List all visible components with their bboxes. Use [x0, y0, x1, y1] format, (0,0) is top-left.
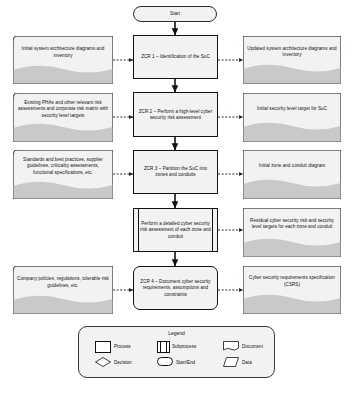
process-zcr4[interactable]: ZCR 4 – Document cyber security requirem… [133, 266, 218, 310]
process-zcr1[interactable]: ZCR 1 – Identification of the SuC [133, 35, 218, 79]
legend-item-process: Process [95, 341, 131, 351]
output-initial-sl-target-label: Initial security level target for SuC [243, 106, 341, 112]
output-initial-zone-conduit-diagram: Initial zone and conduit diagram [243, 150, 341, 199]
start-label: Start [134, 11, 216, 17]
document-icon [223, 341, 239, 351]
input-existing-phas-label: Existing PHAs and other relevant risk as… [13, 100, 113, 119]
output-residual-risk: Residual cyber security risk and securit… [243, 208, 341, 257]
input-initial-architecture: Initial system architecture diagrams and… [13, 36, 113, 84]
input-company-policies: Company policies, regulations, tolerable… [13, 266, 113, 314]
legend-item-subprocess: Subprocess [157, 341, 196, 351]
legend-item-startend-label: Start/End [176, 360, 195, 365]
output-residual-risk-label: Residual cyber security risk and securit… [243, 217, 341, 230]
process-zcr2-label: ZCR 2 – Perform a high-level cyber secur… [134, 108, 217, 121]
input-existing-phas: Existing PHAs and other relevant risk as… [13, 93, 113, 142]
data-icon [223, 357, 239, 367]
output-initial-zone-conduit-diagram-label: Initial zone and conduit diagram [243, 163, 341, 169]
subprocess-detailed-risk-assessment[interactable]: Perform a detailed cyber security risk a… [133, 208, 218, 252]
legend-item-document: Document [223, 341, 263, 351]
legend-item-data: Data [223, 357, 252, 367]
legend-item-decision-label: Decision [114, 360, 132, 365]
process-zcr2[interactable]: ZCR 2 – Perform a high-level cyber secur… [133, 92, 218, 137]
output-csrs-label: Cyber security requirements specificatio… [243, 275, 341, 288]
process-icon [95, 341, 111, 351]
start-terminator: Start [133, 6, 217, 22]
output-updated-architecture: Updated system architecture diagrams and… [243, 36, 341, 84]
output-initial-sl-target: Initial security level target for SuC [243, 93, 341, 142]
legend-item-startend: Start/End [157, 357, 195, 367]
output-updated-architecture-label: Updated system architecture diagrams and… [243, 46, 341, 59]
start-end-icon [157, 357, 173, 367]
subprocess-icon [157, 341, 169, 351]
legend-item-process-label: Process [114, 344, 131, 349]
input-standards-best-practices-label: Standards and best practices, supplier g… [13, 157, 113, 176]
output-csrs: Cyber security requirements specificatio… [243, 266, 341, 314]
decision-icon [95, 357, 111, 367]
input-standards-best-practices: Standards and best practices, supplier g… [13, 150, 113, 199]
legend-item-data-label: Data [242, 360, 252, 365]
legend-item-decision: Decision [95, 357, 132, 367]
process-zcr3[interactable]: ZCR 3 – Partition the SuC into zones and… [133, 150, 218, 194]
process-zcr4-label: ZCR 4 – Document cyber security requirem… [134, 279, 217, 298]
legend-title: Legend [79, 330, 274, 336]
input-company-policies-label: Company policies, regulations, tolerable… [13, 276, 113, 289]
legend-item-document-label: Document [242, 344, 263, 349]
process-zcr3-label: ZCR 3 – Partition the SuC into zones and… [134, 166, 217, 179]
input-initial-architecture-label: Initial system architecture diagrams and… [13, 46, 113, 59]
flowchart-canvas: Start ZCR 1 – Identification of the SuC … [0, 0, 350, 395]
legend: Legend Process Subprocess Document [78, 326, 275, 378]
legend-item-subprocess-label: Subprocess [172, 344, 196, 349]
process-zcr1-label: ZCR 1 – Identification of the SuC [134, 54, 217, 60]
subprocess-detailed-risk-assessment-label: Perform a detailed cyber security risk a… [134, 221, 217, 240]
